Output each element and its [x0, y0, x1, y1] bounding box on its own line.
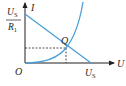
y-axis-label: I [30, 2, 35, 13]
origin-label: O [15, 66, 22, 77]
y-intercept-denominator: R1 [7, 22, 17, 33]
x-intercept-label: US [85, 68, 96, 79]
x-axis-label: U [117, 58, 125, 69]
iu-diagram: I U O Q US R1 US [0, 0, 126, 86]
intersection-label: Q [61, 35, 69, 46]
y-intercept-numerator: US [7, 7, 18, 18]
